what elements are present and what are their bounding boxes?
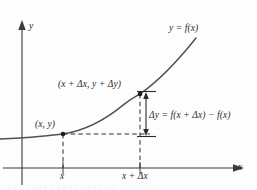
page-bleed-through-artifact: a a a a a a a a a a a a a a a a a a — [8, 182, 248, 190]
x-tick-label: x — [60, 172, 64, 182]
delta-y-arrowhead-down — [143, 129, 149, 136]
curve-equation-label: y = f(x) — [169, 24, 198, 34]
upper-point-marker — [138, 92, 143, 97]
upper-point-coordinate-label: (x + Δx, y + Δy) — [58, 80, 121, 90]
lower-point-marker — [61, 132, 66, 137]
figure-canvas — [0, 0, 257, 190]
calculus-difference-quotient-figure: y = f(x) (x + Δx, y + Δy) (x, y) Δy = f(… — [0, 0, 257, 190]
x-plus-delta-x-tick-label: x + Δx — [122, 172, 148, 182]
x-axis-label: x — [238, 163, 242, 173]
y-axis-arrowhead — [18, 20, 25, 30]
delta-y-arrowhead-up — [143, 92, 149, 99]
lower-point-coordinate-label: (x, y) — [35, 120, 55, 130]
y-axis-label: y — [29, 22, 33, 32]
delta-y-equation-label: Δy = f(x + Δx) − f(x) — [149, 111, 231, 121]
